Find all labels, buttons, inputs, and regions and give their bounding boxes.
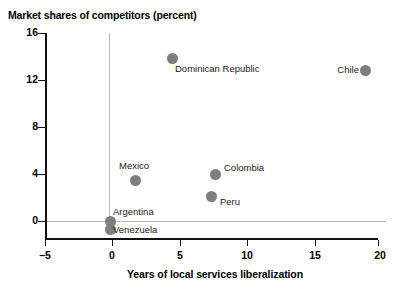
x-axis-tick-20 xyxy=(378,240,379,246)
y-axis-tick-0 xyxy=(38,221,45,222)
data-label-venezuela: Venezuela xyxy=(113,224,157,235)
y-axis-label-0: 0 xyxy=(4,215,38,226)
data-label-argentina: Argentina xyxy=(113,206,154,217)
y-axis-label-16: 16 xyxy=(4,27,38,38)
data-point-colombia[interactable] xyxy=(210,169,221,180)
data-point-mexico[interactable] xyxy=(130,175,141,186)
y-axis-label-8: 8 xyxy=(4,121,38,132)
y-axis-line xyxy=(45,33,47,240)
x-axis-tick-minus5 xyxy=(45,240,46,246)
y-axis-tick-12 xyxy=(38,80,45,81)
data-label-mexico: Mexico xyxy=(119,160,149,171)
x-axis-label-15: 15 xyxy=(295,249,335,261)
data-point-peru[interactable] xyxy=(206,191,217,202)
scatter-chart: Market shares of competitors (percent) 1… xyxy=(0,0,400,299)
y-axis-tick-4 xyxy=(38,174,45,175)
y-axis-tick-16 xyxy=(38,33,45,34)
chart-title: Market shares of competitors (percent) xyxy=(8,9,197,21)
data-label-peru: Peru xyxy=(220,196,240,207)
x-axis-label-0: 0 xyxy=(92,249,132,261)
y-axis-label-4: 4 xyxy=(4,168,38,179)
y-axis-label-12: 12 xyxy=(4,74,38,85)
x-axis-tick-15 xyxy=(315,240,316,246)
data-label-chile: Chile xyxy=(333,64,359,75)
x-axis-line xyxy=(45,238,378,240)
x-axis-tick-10 xyxy=(247,240,248,246)
x-axis-title: Years of local services liberalization xyxy=(45,268,385,280)
data-point-chile[interactable] xyxy=(360,65,371,76)
x-axis-tick-0 xyxy=(112,240,113,246)
x-axis-label-minus5: –5 xyxy=(25,249,65,261)
data-label-dominican-republic: Dominican Republic xyxy=(175,63,259,74)
x-axis-tick-5 xyxy=(180,240,181,246)
x-axis-label-10: 10 xyxy=(227,249,267,261)
x-axis-label-20: 20 xyxy=(360,249,400,261)
y-axis-tick-8 xyxy=(38,127,45,128)
data-point-dominican-republic[interactable] xyxy=(167,53,178,64)
x-zero-reference-line xyxy=(109,33,110,222)
data-label-colombia: Colombia xyxy=(224,162,264,173)
zero-reference-line xyxy=(45,221,386,222)
x-axis-label-5: 5 xyxy=(160,249,200,261)
